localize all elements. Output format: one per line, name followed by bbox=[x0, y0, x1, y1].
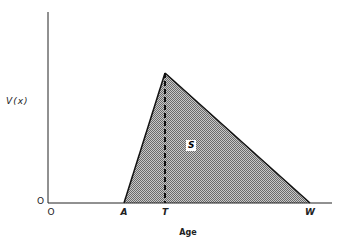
age-value-diagram: V(x) O O A T W Age S bbox=[0, 0, 350, 246]
shaded-region-s bbox=[124, 73, 310, 203]
x-axis-title: Age bbox=[179, 228, 196, 237]
x-tick-origin: O bbox=[47, 207, 54, 217]
x-tick-t: T bbox=[162, 207, 168, 217]
y-origin-label: O bbox=[37, 196, 44, 206]
region-label-s: S bbox=[186, 140, 196, 151]
y-axis-label: V(x) bbox=[6, 96, 29, 106]
x-tick-a: A bbox=[121, 207, 128, 217]
x-tick-w: W bbox=[305, 207, 315, 217]
